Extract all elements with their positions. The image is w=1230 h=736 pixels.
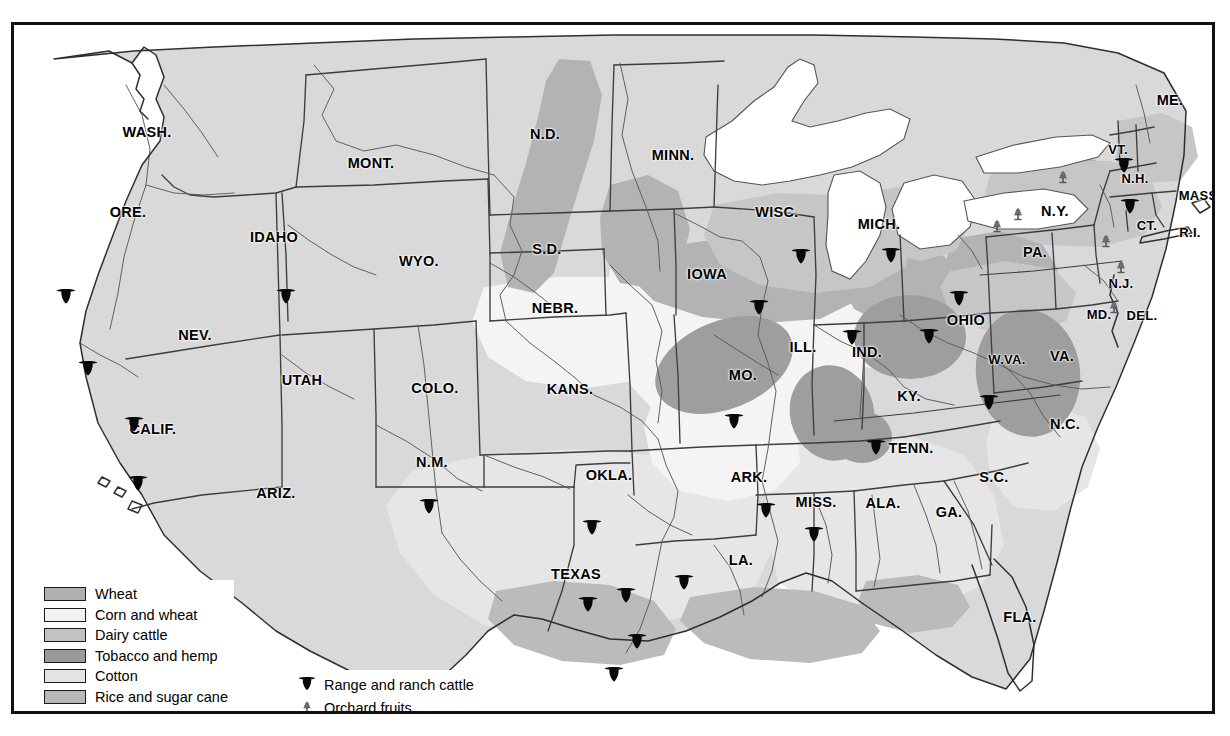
legend-label-dairy-cattle: Dairy cattle [95, 627, 168, 643]
orchard-tree-icon [1012, 208, 1025, 223]
state-label-tenn: TENN. [889, 440, 934, 456]
map-frame: WASH.ORE.IDAHOMONT.WYO.NEV.UTAHCALIF.ARI… [11, 22, 1215, 714]
state-label-minn: MINN. [652, 147, 695, 163]
state-label-la: LA. [729, 552, 753, 568]
state-label-ala: ALA. [865, 495, 900, 511]
state-label-ky: KY. [897, 388, 920, 404]
legend-label-wheat: Wheat [95, 586, 137, 602]
legend-swatch-dairy-cattle [44, 628, 86, 642]
state-label-ohio: OHIO [947, 312, 985, 328]
legend-item-wheat: Wheat [44, 584, 228, 605]
state-label-ind: IND. [852, 344, 882, 360]
legend-symbol-row-2: Orchard fruits [290, 696, 474, 714]
state-label-sd: S.D. [532, 241, 561, 257]
state-label-va: VA. [1050, 348, 1074, 364]
cattle-head-icon [290, 677, 324, 692]
state-label-colo: COLO. [411, 380, 458, 396]
state-label-ill: ILL. [790, 339, 817, 355]
state-label-wash: WASH. [122, 124, 171, 140]
orchard-tree-icon [1057, 171, 1070, 186]
orchard-tree-icon [991, 220, 1004, 235]
legend-symbol-label-2: Orchard fruits [324, 700, 412, 715]
legend-swatch-rice-and-sugar-cane [44, 690, 86, 704]
state-label-okla: OKLA. [586, 467, 633, 483]
state-label-ri: R.I. [1179, 225, 1200, 240]
state-label-iowa: IOWA [687, 266, 727, 282]
state-label-kans: KANS. [547, 381, 594, 397]
orchard-tree-icon [290, 701, 324, 715]
legend-point-symbols: Range and ranch cattleOrchard fruits [282, 670, 482, 714]
legend-label-corn-and-wheat: Corn and wheat [95, 607, 197, 623]
state-label-nd: N.D. [530, 126, 560, 142]
state-label-texas: TEXAS [551, 566, 601, 582]
state-label-utah: UTAH [282, 372, 322, 388]
state-label-ark: ARK. [731, 469, 768, 485]
legend-label-cotton: Cotton [95, 668, 138, 684]
state-label-ny: N.Y. [1041, 203, 1069, 219]
orchard-tree-icon [1115, 261, 1128, 276]
state-label-calif: CALIF. [130, 421, 177, 437]
legend-area-classes: WheatCorn and wheatDairy cattleTobacco a… [40, 580, 234, 711]
state-label-idaho: IDAHO [250, 229, 298, 245]
legend-item-corn-and-wheat: Corn and wheat [44, 605, 228, 626]
state-label-wyo: WYO. [399, 253, 439, 269]
state-label-mont: MONT. [348, 155, 395, 171]
legend-item-rice-and-sugar-cane: Rice and sugar cane [44, 687, 228, 708]
legend-symbol-row-1: Range and ranch cattle [290, 673, 474, 696]
orchard-tree-icon [1108, 301, 1121, 316]
state-label-del: DEL. [1127, 308, 1158, 323]
orchard-tree-icon [1100, 235, 1113, 250]
legend-swatch-corn-and-wheat [44, 608, 86, 622]
state-label-mo: MO. [729, 367, 757, 383]
state-label-miss: MISS. [796, 494, 837, 510]
state-label-nev: NEV. [178, 327, 212, 343]
legend-item-tobacco-and-hemp: Tobacco and hemp [44, 646, 228, 667]
state-label-sc: S.C. [979, 469, 1008, 485]
state-label-mass: MASS. [1179, 188, 1215, 203]
state-label-wisc: WISC. [755, 204, 798, 220]
legend-symbol-label-1: Range and ranch cattle [324, 677, 474, 693]
legend-swatch-tobacco-and-hemp [44, 649, 86, 663]
state-label-mich: MICH. [858, 216, 901, 232]
legend-label-tobacco-and-hemp: Tobacco and hemp [95, 648, 218, 664]
legend-item-dairy-cattle: Dairy cattle [44, 625, 228, 646]
legend-swatch-wheat [44, 587, 86, 601]
state-label-ga: GA. [936, 504, 963, 520]
state-label-vt: VT. [1108, 142, 1128, 157]
state-label-me: ME. [1157, 92, 1184, 108]
map-screenshot: WASH.ORE.IDAHOMONT.WYO.NEV.UTAHCALIF.ARI… [0, 0, 1230, 736]
state-label-pa: PA. [1023, 244, 1047, 260]
legend-swatch-cotton [44, 669, 86, 683]
state-label-ariz: ARIZ. [256, 485, 295, 501]
state-label-nh: N.H. [1121, 171, 1148, 186]
legend-item-cotton: Cotton [44, 666, 228, 687]
state-label-wva: W.VA. [988, 352, 1025, 367]
state-label-nm: N.M. [416, 454, 448, 470]
state-label-ct: CT. [1137, 218, 1157, 233]
state-label-nj: N.J. [1108, 276, 1133, 291]
state-label-nebr: NEBR. [532, 300, 579, 316]
legend-label-rice-and-sugar-cane: Rice and sugar cane [95, 689, 228, 705]
state-label-nc: N.C. [1050, 416, 1080, 432]
state-label-fla: FLA. [1003, 609, 1036, 625]
state-label-ore: ORE. [110, 204, 147, 220]
